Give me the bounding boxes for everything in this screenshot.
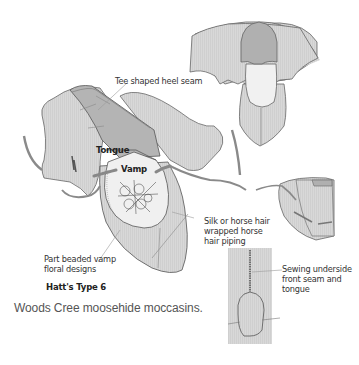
label-hatt-type: Hatt's Type 6 [46, 282, 106, 292]
label-piping: Silk or horse hair wrapped horse hair pi… [204, 216, 270, 246]
sewing-detail [228, 248, 280, 344]
label-heel-seam: Tee shaped heel seam [115, 76, 202, 86]
label-vamp: Vamp [121, 164, 147, 174]
label-beaded-vamp: Part beaded vamp floral designs [44, 254, 116, 274]
label-tongue: Tongue [96, 145, 129, 155]
figure-caption: Woods Cree moosehide moccasins. [14, 301, 203, 315]
label-sewing: Sewing underside front seam and tongue [282, 264, 352, 294]
